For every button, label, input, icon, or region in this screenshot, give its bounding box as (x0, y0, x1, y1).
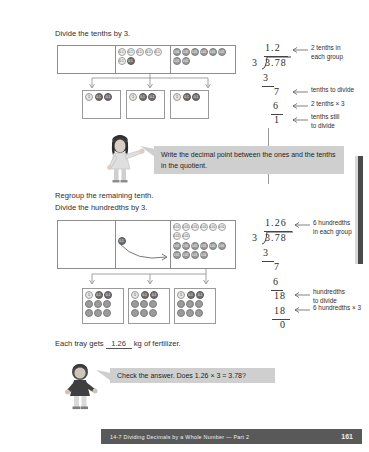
one-disc: 1 (131, 291, 139, 299)
hundredth-disc: 0.01 (191, 242, 199, 250)
branch-arrows-step2 (78, 268, 226, 288)
hundredth-disc: 0.01 (173, 57, 181, 65)
hundredth-disc (103, 309, 111, 317)
tenth-disc: 0.1 (118, 48, 126, 56)
tenth-disc: 0.1 (127, 57, 135, 65)
hundredth-disc: 0.01 (182, 251, 190, 259)
page-footer: 14-7 Dividing Decimals by a Whole Number… (101, 429, 362, 444)
hundredth-disc (186, 300, 194, 308)
annotation-arrow (293, 307, 311, 313)
group-box: 10.10.1 (128, 288, 170, 324)
annotation-line: each group (311, 53, 343, 60)
division-row-3: 18 (274, 290, 286, 301)
group-hundredths-row (83, 309, 123, 317)
division-row-4: 18 (274, 305, 286, 316)
answer-suffix: kg of fertilizer. (134, 339, 181, 348)
annotation-tenths-each-group: 2 tenths in each group (311, 44, 343, 61)
step2-instruction-line2: Divide the hundredths by 3. (55, 203, 147, 212)
group-hundredths-row (129, 309, 169, 317)
tenth-disc: 0.1 (154, 48, 162, 56)
hundredth-disc (195, 300, 203, 308)
quotient-step2: 1.26 (265, 217, 287, 228)
annotation-line: tenths still (311, 113, 339, 120)
annotation-arrow (291, 103, 309, 109)
hundredth-disc: 0.01 (173, 232, 181, 240)
annotation-line: to divide (313, 297, 337, 304)
tenth-disc: 0.1 (141, 291, 149, 299)
hundredth-disc: 0.01 (218, 242, 226, 250)
tenth-disc: 0.1 (118, 57, 126, 65)
hundredth-disc: 0.01 (209, 242, 217, 250)
division-row-3: 1 (274, 114, 280, 125)
hundredth-disc: 0.01 (191, 48, 199, 56)
answer-sentence: Each tray gets 1.26 kg of fertilizer. (55, 339, 181, 349)
step2-instruction-line1: Regroup the remaining tenth. (55, 191, 153, 200)
hundredth-disc: 0.01 (182, 57, 190, 65)
callout-decimal-point: Write the decimal point between the ones… (154, 146, 344, 174)
answer-blank[interactable]: 1.26 (106, 339, 132, 349)
group-disc-row: 10.10.1 (171, 91, 208, 101)
one-disc: 1 (85, 93, 93, 101)
hundredth-disc: 0.01 (191, 223, 199, 231)
hundredth-disc (85, 300, 93, 308)
one-disc: 1 (173, 93, 181, 101)
hundredth-disc: 0.01 (200, 251, 208, 259)
hundredth-disc: 0.01 (209, 48, 217, 56)
quotient-step1: 1.2 (265, 42, 281, 53)
one-disc: 1 (85, 291, 93, 299)
tenth-disc: 0.1 (148, 93, 156, 101)
hundredth-disc (131, 309, 139, 317)
divisor-step2: 3 (252, 232, 257, 243)
tenths-column: 0.10.10.10.10.10.10.1 (116, 46, 171, 73)
hundredth-disc (195, 309, 203, 317)
callout-check-answer: Check the answer. Does 1.26 × 3 = 3.78? (110, 368, 275, 383)
ones-column (58, 221, 116, 268)
hundredth-disc: 0.01 (182, 232, 190, 240)
annotation-line: in each group (313, 228, 352, 235)
group-box: 10.10.1 (174, 288, 216, 324)
hundredth-disc: 0.01 (200, 223, 208, 231)
division-row-5: 0 (280, 319, 286, 330)
hundredth-disc: 0.01 (173, 48, 181, 56)
tenth-disc: 0.1 (127, 48, 135, 56)
division-row-0: 3 (263, 72, 269, 83)
group-disc-row: 10.10.1 (83, 289, 123, 299)
hundredth-disc (186, 309, 194, 317)
division-row-0: 3 (263, 247, 269, 258)
worksheet-page: Divide the tenths by 3. 0.10.10.10.10.10… (0, 0, 369, 452)
hundredth-disc: 0.01 (200, 48, 208, 56)
hundredth-disc: 0.01 (173, 223, 181, 231)
tenth-disc: 0.1 (95, 93, 103, 101)
tenth-disc: 0.1 (187, 291, 195, 299)
group-disc-row: 10.10.1 (129, 289, 169, 299)
hundredth-disc (103, 300, 111, 308)
group-box: 10.10.1 (170, 90, 209, 119)
hundredth-disc (140, 300, 148, 308)
tenth-disc: 0.1 (150, 291, 158, 299)
annotation-line: to divide (311, 122, 335, 129)
student-figure-girl (100, 133, 146, 183)
hundredths-column: 0.010.010.010.010.010.010.010.01 (171, 46, 235, 73)
tenth-disc: 0.1 (192, 93, 200, 101)
divisor-step1: 3 (252, 57, 257, 68)
tenth-disc: 0.1 (183, 93, 191, 101)
annotation-tenths-times-three: 2 tenths × 3 (311, 100, 345, 109)
hundredth-disc (94, 300, 102, 308)
annotation-arrow (293, 222, 311, 228)
group-hundredths-row (175, 300, 215, 308)
hundredth-disc: 0.01 (200, 242, 208, 250)
annotation-arrow (291, 89, 309, 95)
hundredth-disc: 0.01 (182, 48, 190, 56)
annotation-hundredths-to-divide: hundredths to divide (313, 288, 345, 305)
annotation-arrow (291, 117, 309, 123)
footer-page-number: 161 (341, 433, 353, 440)
hundredth-disc (131, 300, 139, 308)
one-disc: 1 (177, 291, 185, 299)
one-disc: 1 (129, 93, 137, 101)
division-row-2: 6 (273, 276, 279, 287)
division-row-1: 7 (274, 86, 280, 97)
division-row-1: 7 (274, 261, 280, 272)
hundredths-column: 0.010.010.010.010.010.010.010.010.010.01… (171, 221, 235, 268)
annotation-arrow (291, 47, 309, 53)
tenth-disc: 0.1 (145, 48, 153, 56)
